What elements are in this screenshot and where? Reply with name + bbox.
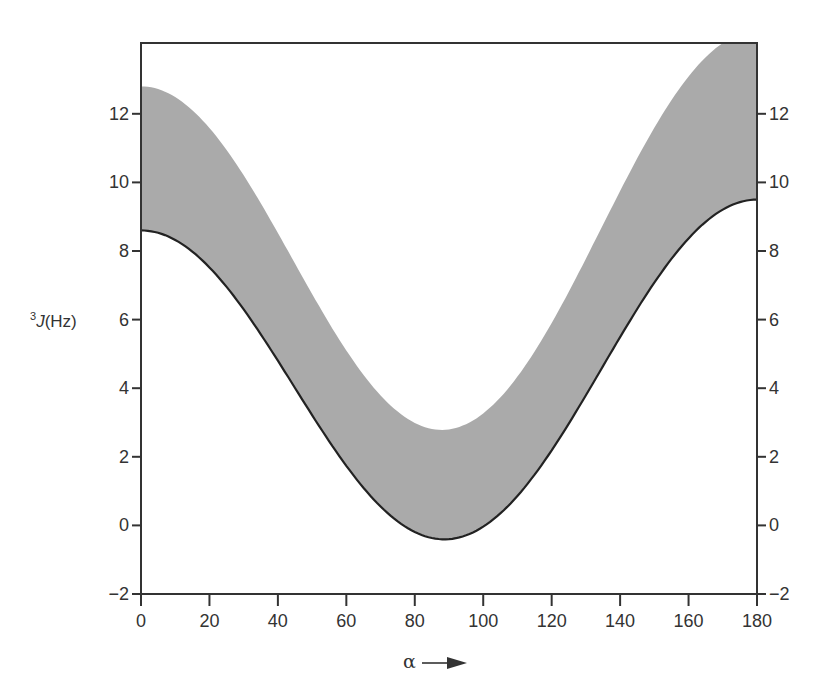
- karplus-chart: −2024681012 −2024681012 0204060801001201…: [0, 0, 828, 695]
- x-tick-label: 0: [136, 611, 146, 631]
- y-tick-label-right: 12: [769, 104, 789, 124]
- x-tick-label: 60: [336, 611, 356, 631]
- y-axis-left: −2024681012: [108, 104, 141, 604]
- y-tick-label-right: 10: [769, 172, 789, 192]
- x-tick-label: 100: [468, 611, 498, 631]
- x-tick-label: 20: [199, 611, 219, 631]
- y-tick-label-left: 4: [119, 378, 129, 398]
- x-tick-label: 80: [405, 611, 425, 631]
- y-axis-label: 3J(Hz): [30, 310, 77, 331]
- y-tick-label-left: 12: [109, 104, 129, 124]
- plot-area: [141, 32, 757, 540]
- y-tick-label-right: 2: [769, 447, 779, 467]
- shaded-band: [141, 32, 757, 540]
- y-tick-label-left: 0: [119, 515, 129, 535]
- x-axis-label: α: [403, 650, 416, 672]
- y-tick-label-right: 6: [769, 310, 779, 330]
- y-tick-label-left: 6: [119, 310, 129, 330]
- y-tick-label-right: 4: [769, 378, 779, 398]
- x-axis: 020406080100120140160180: [136, 594, 772, 631]
- y-axis-right: −2024681012: [757, 104, 790, 604]
- y-axis-label-unit: (Hz): [45, 312, 77, 331]
- x-tick-label: 40: [268, 611, 288, 631]
- y-tick-label-left: 8: [119, 241, 129, 261]
- y-axis-label-main: J: [35, 312, 45, 331]
- y-tick-label-left: −2: [108, 584, 129, 604]
- x-tick-label: 140: [605, 611, 635, 631]
- x-tick-label: 180: [742, 611, 772, 631]
- y-tick-label-right: −2: [769, 584, 790, 604]
- y-tick-label-left: 10: [109, 172, 129, 192]
- arrow-right-icon: [422, 657, 467, 669]
- x-tick-label: 160: [674, 611, 704, 631]
- y-tick-label-right: 0: [769, 515, 779, 535]
- x-tick-label: 120: [537, 611, 567, 631]
- y-tick-label-right: 8: [769, 241, 779, 261]
- y-tick-label-left: 2: [119, 447, 129, 467]
